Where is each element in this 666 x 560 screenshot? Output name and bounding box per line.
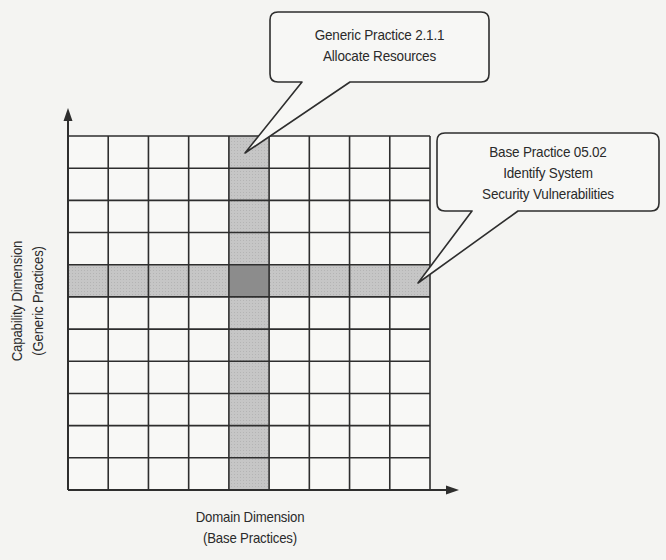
grid-cell bbox=[269, 200, 309, 232]
grid-cell bbox=[148, 233, 188, 265]
grid-cell bbox=[68, 233, 108, 265]
grid-cell bbox=[309, 200, 349, 232]
callout-base-practice-title: Base Practice 05.02 bbox=[448, 141, 648, 162]
grid-cell bbox=[189, 458, 229, 490]
grid-cell bbox=[108, 200, 148, 232]
grid-cell bbox=[148, 458, 188, 490]
grid-cell-highlight-column bbox=[229, 426, 269, 458]
grid-cell bbox=[108, 136, 148, 168]
callout-base-practice-subtitle-1: Identify System bbox=[448, 162, 648, 183]
grid-cell bbox=[108, 393, 148, 425]
grid-cell bbox=[68, 393, 108, 425]
grid-cell-highlight-row bbox=[309, 265, 349, 297]
x-axis-label-line1: Domain Dimension bbox=[162, 506, 338, 527]
grid-cell bbox=[108, 168, 148, 200]
grid-cell bbox=[390, 297, 430, 329]
grid-cell bbox=[390, 233, 430, 265]
grid-cell-highlight-column bbox=[229, 297, 269, 329]
grid-cell bbox=[148, 136, 188, 168]
grid-cell bbox=[269, 458, 309, 490]
grid-cell bbox=[350, 297, 390, 329]
grid-cell bbox=[350, 329, 390, 361]
grid-cell bbox=[350, 136, 390, 168]
y-axis-label: Capability Dimension (Generic Practices) bbox=[6, 222, 48, 380]
callout-generic-practice-title: Generic Practice 2.1.1 bbox=[281, 24, 478, 45]
grid-cell bbox=[269, 426, 309, 458]
grid-cell bbox=[309, 361, 349, 393]
grid-cell bbox=[108, 297, 148, 329]
y-axis-label-line1: Capability Dimension bbox=[6, 222, 27, 380]
grid-cell bbox=[309, 329, 349, 361]
grid-cell bbox=[390, 361, 430, 393]
grid-cell bbox=[189, 168, 229, 200]
grid-cell bbox=[108, 233, 148, 265]
grid-cell bbox=[148, 329, 188, 361]
grid-cell bbox=[68, 200, 108, 232]
grid-cell bbox=[148, 168, 188, 200]
grid-cell-highlight-column bbox=[229, 458, 269, 490]
grid-cell-highlight-row bbox=[108, 265, 148, 297]
grid-cell bbox=[309, 426, 349, 458]
grid-cell-highlight-row bbox=[350, 265, 390, 297]
grid-cell bbox=[390, 329, 430, 361]
grid-cell bbox=[350, 200, 390, 232]
grid-cell bbox=[189, 393, 229, 425]
grid-cells bbox=[68, 136, 430, 490]
callout-base-practice-text: Base Practice 05.02 Identify System Secu… bbox=[437, 141, 659, 204]
grid-cell bbox=[390, 136, 430, 168]
grid-cell bbox=[350, 233, 390, 265]
grid-cell bbox=[108, 426, 148, 458]
grid-cell-highlight-column bbox=[229, 200, 269, 232]
grid-cell bbox=[189, 329, 229, 361]
grid-cell bbox=[148, 200, 188, 232]
grid-cell bbox=[68, 426, 108, 458]
grid-cell bbox=[269, 329, 309, 361]
grid-cell bbox=[309, 297, 349, 329]
grid-cell bbox=[309, 458, 349, 490]
grid-cell-highlight-row bbox=[148, 265, 188, 297]
grid-cell-highlight-column bbox=[229, 168, 269, 200]
grid-cell bbox=[350, 458, 390, 490]
grid-cell bbox=[68, 458, 108, 490]
grid-cell bbox=[350, 168, 390, 200]
grid-cell bbox=[350, 361, 390, 393]
grid-cell bbox=[390, 393, 430, 425]
grid-cell-intersection bbox=[229, 265, 269, 297]
grid-cell bbox=[390, 426, 430, 458]
grid-cell bbox=[309, 393, 349, 425]
grid-cell bbox=[269, 361, 309, 393]
callout-generic-practice-text: Generic Practice 2.1.1 Allocate Resource… bbox=[270, 24, 489, 66]
x-axis-arrow-icon bbox=[446, 486, 459, 495]
grid-cell-highlight-column bbox=[229, 361, 269, 393]
grid-cell bbox=[148, 297, 188, 329]
grid-cell bbox=[309, 168, 349, 200]
grid-cell bbox=[189, 200, 229, 232]
grid-cell bbox=[189, 426, 229, 458]
callout-generic-practice-subtitle: Allocate Resources bbox=[281, 45, 478, 66]
grid-cell bbox=[189, 297, 229, 329]
grid-cell bbox=[269, 233, 309, 265]
grid-cell-highlight-column bbox=[229, 329, 269, 361]
callout-base-practice-subtitle-2: Security Vulnerabilities bbox=[448, 183, 648, 204]
grid-cell bbox=[68, 329, 108, 361]
grid-cell bbox=[189, 361, 229, 393]
grid-cell bbox=[390, 458, 430, 490]
grid-cell bbox=[189, 233, 229, 265]
grid-cell bbox=[309, 233, 349, 265]
grid-cell-highlight-row bbox=[68, 265, 108, 297]
grid-cell bbox=[68, 168, 108, 200]
grid-cell bbox=[108, 458, 148, 490]
grid-cell bbox=[269, 297, 309, 329]
grid-cell bbox=[148, 393, 188, 425]
x-axis-label: Domain Dimension (Base Practices) bbox=[162, 506, 338, 548]
grid-cell-highlight-column bbox=[229, 393, 269, 425]
grid-cell-highlight-row bbox=[390, 265, 430, 297]
grid-cell bbox=[269, 393, 309, 425]
y-axis-label-line2: (Generic Practices) bbox=[27, 222, 48, 380]
y-axis-arrow-icon bbox=[64, 108, 73, 121]
grid-cell bbox=[269, 136, 309, 168]
grid-cell bbox=[269, 168, 309, 200]
grid-cell bbox=[108, 329, 148, 361]
grid-cell bbox=[390, 168, 430, 200]
grid-cell bbox=[68, 136, 108, 168]
